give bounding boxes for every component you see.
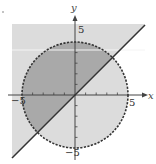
x-tick-label-pos: 5 — [129, 97, 135, 108]
y-tick-label-pos: 5 — [78, 24, 84, 35]
y-axis-label: y — [70, 2, 77, 13]
y-axis-arrow-icon — [73, 15, 78, 21]
y-tick-label-neg: −5 — [65, 147, 80, 158]
x-tick-label-neg: −5 — [11, 95, 26, 106]
x-axis-label: x — [148, 90, 154, 101]
graph: y x 5 −5 −5 5 — [0, 0, 156, 164]
bullet-dot — [2, 11, 4, 13]
